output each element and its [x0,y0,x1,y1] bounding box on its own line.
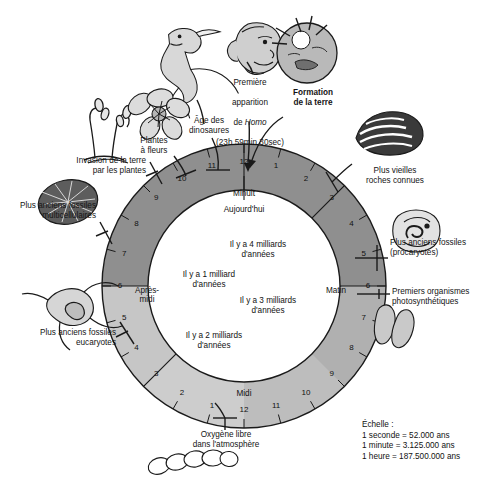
hour-number-10: 10 [299,389,313,397]
hour-number-0: 12 [237,158,251,166]
hour-number-20: 8 [130,220,144,228]
scale-line-1: 1 seconde = 52.000 ans [362,431,460,442]
hour-number-17: 5 [117,314,131,322]
earth-history-clock-diagram: 121234567891011121234567891011 Minuit Ma… [0,0,488,496]
hour-number-8: 8 [344,344,358,352]
label-fossiles-multicellulaires: Plus anciens fossiles multicellulaires [0,201,96,221]
hour-number-3: 3 [325,194,339,202]
label-plantes-fleurs: Plantes à fleurs [126,136,182,156]
label-photosynthetiques: Premiers organismes photosynthétiques [392,287,488,307]
label-formation-terre: Formation de la terre [278,88,348,108]
hour-number-13: 1 [205,402,219,410]
homo-line-1: Première [196,78,304,88]
hour-number-16: 4 [130,344,144,352]
ring-period-midi: Midi [220,389,268,398]
label-fossiles-procaryotes: Plus anciens fossiles (procaryotes) [390,238,488,258]
scale-line-3: 1 heure = 187.500.000 ans [362,452,460,463]
scale-line-2: 1 minute = 3.125.000 ans [362,441,460,452]
homo-genus: Homo [245,118,267,127]
label-invasion-plantes: Invasion de la terre par les plantes [28,156,146,176]
label-premiere-apparition-homo: Première apparition de Homo (23h 59min 3… [196,68,304,158]
hour-number-22: 10 [175,175,189,183]
ring-period-matin: Matin [312,286,360,295]
leader-roches [332,164,352,182]
inner-label-3-milliards: Il y a 3 milliards d'années [213,296,323,316]
hour-number-14: 2 [175,389,189,397]
ring-period-minuit: Minuit [220,189,268,198]
label-oxygene-libre: Oxygène libre dans l'atmosphère [166,430,286,450]
homo-line-4: (23h 59min 30sec) [196,138,304,148]
hominid-head-icon [227,23,281,75]
scale-legend: Échelle : 1 seconde = 52.000 ans 1 minut… [362,420,460,462]
hour-number-9: 9 [325,370,339,378]
photosynthetic-bacteria-icon [374,305,414,348]
hour-number-6: 6 [361,282,375,290]
hour-number-15: 3 [149,370,163,378]
inner-label-4-milliards: Il y a 4 milliards d'années [203,240,313,260]
stromatolite-rock-icon [356,112,423,155]
homo-line-3: de Homo [196,118,304,128]
homo-de: de [233,118,244,127]
hour-number-2: 2 [299,175,313,183]
hour-number-12: 12 [237,406,251,414]
hour-number-11: 11 [269,402,283,410]
hour-number-21: 9 [149,194,163,202]
inner-label-2-milliards: Il y a 2 milliards d'années [159,331,269,351]
hour-number-1: 1 [269,162,283,170]
cyanobacteria-chain-icon [146,450,239,477]
hour-number-4: 4 [344,220,358,228]
inner-label-1-milliard: Il y a 1 milliard d'années [154,270,264,290]
inner-label-aujourdhui: Aujourd'hui [189,205,299,215]
hour-number-5: 5 [357,250,371,258]
scale-title: Échelle : [362,420,460,431]
hour-number-23: 11 [205,162,219,170]
hour-number-7: 7 [357,314,371,322]
label-fossiles-eucaryotes: Plus anciens fossiles eucaryotes [6,328,116,348]
label-vieilles-roches: Plus vieilles roches connues [352,166,438,186]
hour-number-19: 7 [117,250,131,258]
